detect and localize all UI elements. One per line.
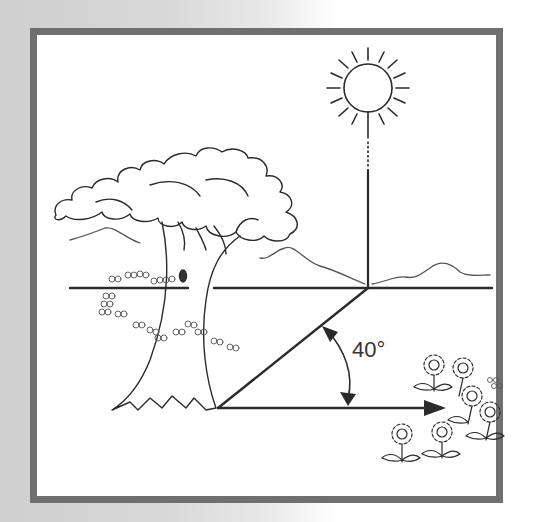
angle-label: 40°: [352, 337, 385, 363]
tree-icon: [55, 148, 297, 410]
arc-arrow-down-icon: [340, 392, 356, 406]
sun-icon: [327, 48, 409, 168]
sunlight-ray: [218, 288, 368, 408]
arrow-head-icon: [424, 400, 446, 416]
sun-angle-diagram: [0, 0, 547, 522]
